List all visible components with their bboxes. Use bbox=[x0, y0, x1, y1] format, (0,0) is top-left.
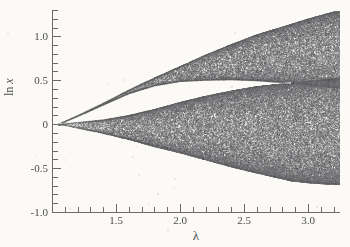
x-axis-tick bbox=[52, 207, 53, 212]
scan-speckle bbox=[167, 229, 169, 231]
x-axis-tick bbox=[308, 204, 309, 212]
y-axis-tick bbox=[53, 28, 58, 29]
y-axis-tick bbox=[53, 19, 58, 20]
y-axis-tick bbox=[53, 194, 58, 195]
y-axis-tick bbox=[53, 177, 58, 178]
x-axis-tick bbox=[231, 207, 232, 212]
x-axis-tick bbox=[270, 207, 271, 212]
y-axis-title: ln x bbox=[2, 78, 17, 96]
x-axis-tick bbox=[334, 207, 335, 212]
x-axis-tick-label: 1.5 bbox=[109, 214, 123, 226]
y-axis-tick bbox=[53, 186, 58, 187]
y-axis-tick-label: 1.0 bbox=[34, 31, 48, 42]
y-axis-tick-label: 0.5 bbox=[34, 75, 48, 86]
x-axis-title: λ bbox=[193, 228, 199, 244]
y-axis-tick bbox=[53, 159, 58, 160]
x-axis-tick bbox=[282, 207, 283, 212]
scan-speckle bbox=[7, 32, 9, 34]
x-axis-tick bbox=[244, 204, 245, 212]
scan-speckle bbox=[38, 86, 39, 87]
x-axis-tick bbox=[180, 204, 181, 212]
x-axis-tick-label: 3.0 bbox=[301, 214, 315, 226]
y-axis-title-variable: x bbox=[2, 78, 16, 83]
x-axis-tick bbox=[103, 207, 104, 212]
y-axis-tick bbox=[53, 98, 58, 99]
y-axis-tick bbox=[53, 151, 58, 152]
y-axis-tick bbox=[53, 133, 58, 134]
plot-area bbox=[52, 10, 340, 212]
y-axis-tick bbox=[53, 107, 58, 108]
x-axis-tick bbox=[129, 207, 130, 212]
bifurcation-diagram-figure: ln x λ 1.00.50-0.5-1.01.52.02.53.0 bbox=[0, 0, 350, 247]
x-axis-tick bbox=[218, 207, 219, 212]
scan-speckle bbox=[40, 17, 41, 18]
y-axis-tick bbox=[53, 203, 58, 204]
y-axis-tick bbox=[53, 54, 58, 55]
y-axis-tick bbox=[53, 80, 61, 81]
y-axis-tick bbox=[53, 124, 61, 125]
y-axis-tick-label: 0 bbox=[43, 119, 49, 130]
scan-speckle bbox=[14, 128, 15, 129]
y-axis-tick bbox=[53, 63, 58, 64]
y-axis-tick bbox=[53, 115, 58, 116]
x-axis-tick bbox=[167, 207, 168, 212]
x-axis-tick bbox=[321, 207, 322, 212]
y-axis-tick-label: -1.0 bbox=[31, 207, 48, 218]
y-axis-tick bbox=[53, 45, 58, 46]
y-axis-tick bbox=[53, 168, 61, 169]
x-axis-tick bbox=[206, 207, 207, 212]
y-axis-tick-label: -0.5 bbox=[31, 163, 48, 174]
x-axis-tick bbox=[154, 207, 155, 212]
y-axis-title-prefix: ln bbox=[2, 87, 16, 96]
y-axis-tick bbox=[53, 89, 58, 90]
y-axis-tick bbox=[53, 36, 61, 37]
x-axis-spine bbox=[52, 212, 340, 213]
scan-speckle bbox=[283, 239, 284, 240]
x-axis-tick bbox=[257, 207, 258, 212]
y-axis-tick bbox=[53, 71, 58, 72]
y-axis-tick bbox=[53, 10, 58, 11]
x-axis-tick bbox=[142, 207, 143, 212]
x-axis-tick bbox=[116, 204, 117, 212]
x-axis-tick bbox=[90, 207, 91, 212]
x-axis-tick bbox=[78, 207, 79, 212]
x-axis-tick bbox=[65, 207, 66, 212]
x-axis-tick bbox=[295, 207, 296, 212]
x-axis-tick-label: 2.0 bbox=[173, 214, 187, 226]
x-axis-tick bbox=[193, 207, 194, 212]
y-axis-tick bbox=[53, 142, 58, 143]
y-axis-spine bbox=[52, 10, 53, 213]
y-axis-tick bbox=[53, 212, 61, 213]
x-axis-tick-label: 2.5 bbox=[237, 214, 251, 226]
scan-speckle bbox=[35, 154, 37, 156]
bifurcation-data-canvas bbox=[52, 10, 340, 212]
